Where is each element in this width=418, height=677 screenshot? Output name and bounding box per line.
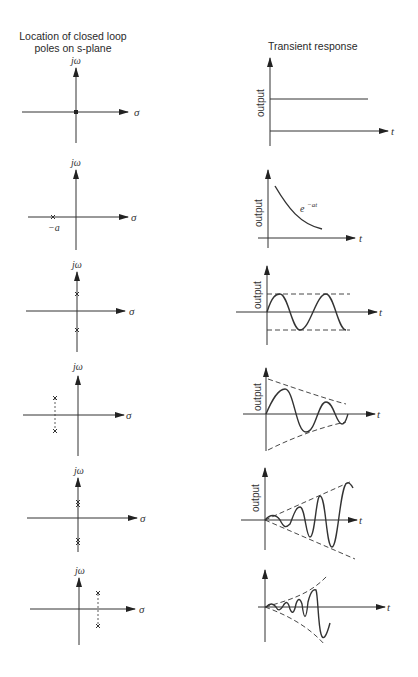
- s-plane-row-1: [22, 68, 128, 143]
- s-plane-row-6: [30, 578, 135, 645]
- output-label-5: output: [250, 484, 261, 512]
- output-label-2: output: [253, 199, 264, 227]
- response-row-1: [270, 58, 388, 146]
- s-plane-row-5: [27, 478, 137, 552]
- sigma-label-2: σ: [131, 211, 137, 223]
- jw-label-4: jω: [71, 361, 83, 372]
- jw-label-5: jω: [72, 465, 84, 476]
- t-label-1: t: [391, 125, 395, 137]
- pole-label-minus-a: −a: [48, 222, 60, 233]
- jw-label-6: jω: [73, 565, 85, 576]
- t-label-4: t: [377, 408, 381, 420]
- t-label-3: t: [379, 306, 383, 318]
- sigma-label-6: σ: [139, 603, 145, 615]
- pole-origin-icon: [74, 110, 78, 114]
- sigma-label-3: σ: [129, 305, 135, 317]
- output-label-1: output: [255, 89, 266, 117]
- s-plane-row-4: [23, 376, 124, 456]
- t-label-5: t: [359, 514, 363, 526]
- response-row-6: [258, 570, 385, 645]
- t-label-6: t: [387, 601, 391, 613]
- pole-x-icon: [53, 429, 57, 433]
- sigma-label-5: σ: [140, 512, 146, 524]
- jw-label-3: jω: [70, 259, 82, 270]
- response-row-5: [241, 468, 357, 559]
- pole-x-icon: [96, 624, 100, 628]
- sigma-label-4: σ: [126, 409, 132, 421]
- s-plane-row-3: [26, 272, 125, 352]
- output-label-4: output: [252, 383, 263, 411]
- jw-label-1: jω: [69, 55, 81, 66]
- jw-label-2: jω: [69, 157, 81, 168]
- diagram-canvas: jω σ output t jω σ −a output t e −at jω …: [0, 0, 418, 677]
- annotation-exp-power: −at: [307, 201, 318, 209]
- s-plane-row-2: [28, 170, 128, 250]
- output-label-3: output: [252, 281, 263, 309]
- annotation-exp-base: e: [300, 203, 305, 214]
- response-row-2: [258, 170, 355, 248]
- t-label-2: t: [359, 232, 363, 244]
- sigma-label-1: σ: [134, 106, 140, 118]
